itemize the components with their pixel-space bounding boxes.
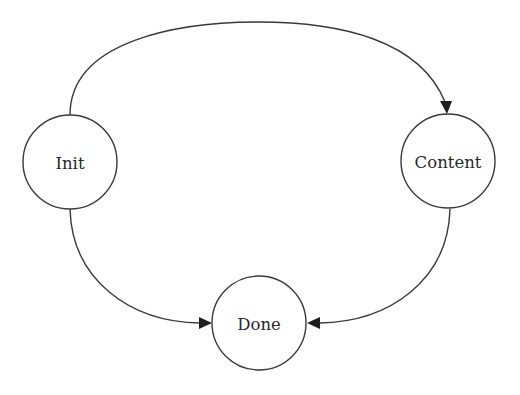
state-diagram: Init Content Done (0, 0, 520, 395)
node-label: Content (415, 153, 482, 172)
node-done[interactable]: Done (212, 276, 306, 370)
edge-path (319, 209, 450, 323)
node-label: Done (237, 315, 281, 334)
node-label: Init (55, 154, 84, 173)
edge-path (70, 209, 200, 323)
edge-content-to-done (307, 209, 450, 329)
arrowhead-icon (307, 317, 320, 329)
edge-path (70, 22, 445, 115)
node-content[interactable]: Content (401, 114, 495, 208)
edge-init-to-content (70, 22, 452, 115)
edge-init-to-done (70, 209, 212, 329)
arrowhead-icon (199, 317, 212, 329)
arrowhead-icon (440, 101, 452, 114)
node-init[interactable]: Init (23, 115, 117, 209)
